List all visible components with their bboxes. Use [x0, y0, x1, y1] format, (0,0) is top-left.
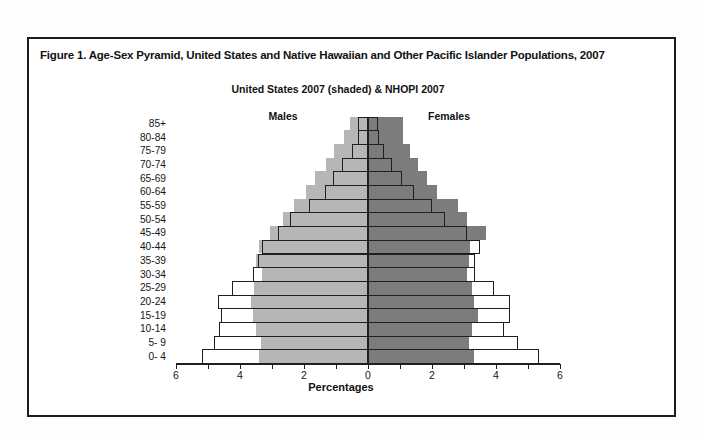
- axis-tick-label: 4: [230, 369, 250, 381]
- axis-tick-label: 4: [486, 369, 506, 381]
- axis-tick-label: 2: [294, 369, 314, 381]
- age-label: 65-69: [100, 173, 166, 184]
- bar-nhopi-female-40-44: [368, 240, 480, 255]
- bar-nhopi-male-35-39: [258, 254, 368, 269]
- age-label: 70-74: [100, 159, 166, 170]
- axis-tick: [464, 364, 465, 369]
- age-label: 15-19: [100, 310, 166, 321]
- bar-nhopi-female-65-69: [368, 171, 402, 186]
- bar-nhopi-female-25-29: [368, 281, 494, 296]
- bar-nhopi-male-45-49: [278, 226, 368, 241]
- bar-nhopi-male-20-24: [218, 295, 368, 310]
- bar-nhopi-female-55-59: [368, 199, 432, 214]
- bar-nhopi-male-15-19: [221, 308, 368, 323]
- bar-nhopi-female-10-14: [368, 322, 504, 337]
- bar-nhopi-female-80-84: [368, 130, 379, 145]
- axis-tick: [400, 364, 401, 369]
- bar-nhopi-male-40-44: [262, 240, 368, 255]
- bar-nhopi-male-70-74: [342, 158, 368, 173]
- age-label: 20-24: [100, 296, 166, 307]
- bar-nhopi-female-5-9: [368, 336, 518, 351]
- bar-nhopi-female-15-19: [368, 308, 510, 323]
- age-label: 25-29: [100, 282, 166, 293]
- bar-nhopi-female-0-4: [368, 349, 539, 364]
- bar-nhopi-female-60-64: [368, 185, 414, 200]
- bar-nhopi-female-70-74: [368, 158, 392, 173]
- age-label: 45-49: [100, 227, 166, 238]
- age-label: 75-79: [100, 145, 166, 156]
- bar-nhopi-female-50-54: [368, 212, 445, 227]
- bar-nhopi-male-50-54: [290, 212, 368, 227]
- bar-nhopi-male-5-9: [214, 336, 368, 351]
- age-label: 60-64: [100, 186, 166, 197]
- age-label: 50-54: [100, 214, 166, 225]
- bar-nhopi-female-85+: [368, 117, 378, 132]
- axis-tick-label: 6: [166, 369, 186, 381]
- bar-nhopi-female-30-34: [368, 267, 475, 282]
- age-label: 80-84: [100, 132, 166, 143]
- bar-nhopi-male-65-69: [333, 171, 368, 186]
- age-label: 55-59: [100, 200, 166, 211]
- age-label: 0- 4: [100, 351, 166, 362]
- bar-nhopi-male-60-64: [325, 185, 368, 200]
- axis-tick: [528, 364, 529, 369]
- age-label: 30-34: [100, 269, 166, 280]
- axis-tick-label: 6: [550, 369, 570, 381]
- axis-tick-label: 0: [358, 369, 378, 381]
- bar-nhopi-female-35-39: [368, 254, 475, 269]
- bar-nhopi-male-55-59: [309, 199, 368, 214]
- bar-nhopi-female-45-49: [368, 226, 467, 241]
- axis-tick: [208, 364, 209, 369]
- age-label: 5- 9: [100, 337, 166, 348]
- age-label: 40-44: [100, 241, 166, 252]
- age-label: 35-39: [100, 255, 166, 266]
- page: Figure 1. Age-Sex Pyramid, United States…: [0, 0, 704, 439]
- axis-tick: [272, 364, 273, 369]
- x-axis-title: Percentages: [241, 381, 441, 393]
- bar-nhopi-male-75-79: [352, 144, 368, 159]
- bar-nhopi-male-0-4: [202, 349, 368, 364]
- age-label: 85+: [100, 118, 166, 129]
- age-label: 10-14: [100, 323, 166, 334]
- center-axis-line: [367, 117, 369, 365]
- bar-nhopi-male-10-14: [219, 322, 368, 337]
- pyramid-chart: 85+80-8475-7970-7465-6960-6455-5950-5445…: [0, 0, 704, 439]
- bar-nhopi-female-75-79: [368, 144, 384, 159]
- axis-tick-label: 2: [422, 369, 442, 381]
- bar-nhopi-male-25-29: [232, 281, 368, 296]
- axis-tick: [336, 364, 337, 369]
- bar-nhopi-male-30-34: [253, 267, 368, 282]
- bar-nhopi-female-20-24: [368, 295, 510, 310]
